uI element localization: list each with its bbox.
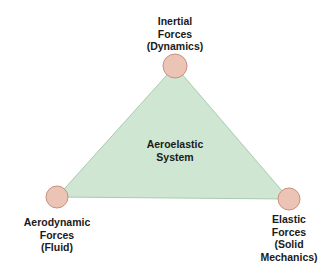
- elastic-node: [278, 188, 300, 210]
- center-label: Aeroelastic System: [130, 138, 220, 163]
- label-line: Inertial: [135, 15, 215, 28]
- aeroelastic-triangle: [57, 66, 289, 199]
- label-line: Forces: [254, 226, 324, 239]
- aerodynamic-forces-label: Aerodynamic Forces (Fluid): [17, 216, 97, 254]
- label-line: Aerodynamic: [17, 216, 97, 229]
- label-line: Elastic: [254, 213, 324, 226]
- inertial-node: [163, 54, 187, 78]
- aerodynamic-node: [46, 186, 68, 208]
- elastic-forces-label: Elastic Forces (Solid Mechanics): [254, 213, 324, 263]
- label-line: (Solid: [254, 238, 324, 251]
- label-line: Forces: [135, 28, 215, 41]
- label-line: System: [130, 151, 220, 164]
- label-line: (Fluid): [17, 241, 97, 254]
- label-line: Mechanics): [254, 251, 324, 264]
- aeroelastic-diagram: Inertial Forces (Dynamics) Aeroelastic S…: [0, 0, 334, 272]
- inertial-forces-label: Inertial Forces (Dynamics): [135, 15, 215, 53]
- label-line: Forces: [17, 229, 97, 242]
- label-line: Aeroelastic: [130, 138, 220, 151]
- label-line: (Dynamics): [135, 40, 215, 53]
